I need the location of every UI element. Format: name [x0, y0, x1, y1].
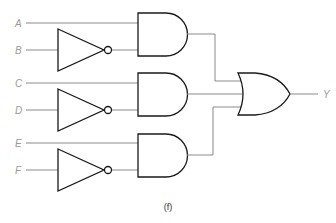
input-label-c: C: [15, 78, 23, 89]
logic-circuit-diagram: A B C D E F Y (f): [0, 0, 336, 223]
wire-and3-out: [187, 107, 242, 155]
input-label-a: A: [14, 18, 22, 29]
not-gate-1-icon: [58, 29, 104, 71]
figure-caption: (f): [164, 202, 173, 212]
input-label-d: D: [15, 105, 22, 116]
inversion-bubble-3-icon: [105, 167, 112, 174]
and-gate-1-icon: [138, 13, 188, 56]
gate-group-1: [26, 13, 242, 81]
wire-and1-out: [187, 34, 242, 81]
inversion-bubble-1-icon: [105, 47, 112, 54]
and-gate-2-icon: [138, 73, 188, 116]
inversion-bubble-2-icon: [105, 107, 112, 114]
or-gate-icon: [238, 73, 290, 115]
not-gate-3-icon: [58, 149, 104, 191]
not-gate-2-icon: [58, 89, 104, 131]
input-label-b: B: [15, 45, 22, 56]
gate-group-2: [26, 73, 244, 131]
input-label-e: E: [15, 138, 22, 149]
input-label-f: F: [15, 165, 22, 176]
and-gate-3-icon: [138, 134, 188, 177]
output-label-y: Y: [323, 89, 331, 100]
